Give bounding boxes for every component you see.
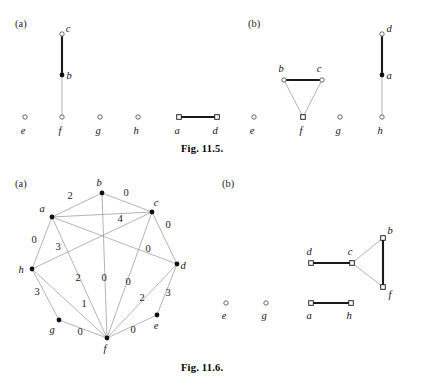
edge-weight-b-c: 0 (123, 187, 128, 198)
node-d-dot-marker (175, 262, 180, 267)
node-label-h: h (18, 264, 23, 275)
node-h-circle-marker (136, 115, 140, 119)
node-label-h: h (346, 310, 351, 321)
node-label-h: h (377, 125, 382, 136)
edge-a-b (52, 193, 102, 217)
edge-weight-h-f: 1 (81, 298, 86, 309)
edge-weight-a-c: 4 (117, 213, 123, 224)
node-a-dot-marker (50, 215, 55, 220)
edge-weight-f-d: 2 (139, 292, 144, 303)
edge-weight-e-d: 3 (165, 287, 170, 298)
node-group-fig115a: cbfeghad (21, 23, 220, 136)
panel-label-fig115-b: (b) (248, 18, 260, 29)
node-g-circle-marker (338, 115, 342, 119)
node-label-c: c (348, 246, 353, 257)
node-h-dot-marker (30, 267, 35, 272)
node-label-f: f (300, 125, 305, 136)
edge-b-f (284, 80, 303, 117)
edge-h-c (32, 212, 152, 269)
node-a-dot-marker (380, 73, 385, 78)
node-label-g: g (335, 125, 340, 136)
panel-label-fig115-a: (a) (15, 18, 27, 29)
node-b-circle-marker (282, 78, 286, 82)
node-b-dot-marker (100, 191, 105, 196)
node-f-circle-marker (60, 115, 64, 119)
edge-weight-c-d: 0 (165, 219, 170, 230)
node-group-fig115b: bcfegdah (250, 23, 393, 136)
node-label-d: d (212, 125, 218, 136)
edge-weight-a-h: 0 (31, 234, 36, 245)
node-label-e: e (21, 125, 26, 136)
node-e-circle-marker (23, 115, 27, 119)
node-group-fig116b: bdcfegah (222, 225, 394, 321)
node-label-d: d (386, 23, 392, 34)
node-b-dot-marker (60, 73, 65, 78)
node-c-square-marker (350, 261, 355, 266)
node-f-square-marker (381, 285, 386, 290)
edge-c-f (107, 212, 152, 338)
edge-weight-g-f: 0 (77, 326, 82, 337)
node-a-square-marker (309, 301, 314, 306)
node-f-dot-marker (105, 336, 110, 341)
node-g-dot-marker (57, 318, 62, 323)
node-label-h: h (133, 125, 138, 136)
node-label-a: a (174, 125, 179, 136)
edge-weight-b-f: 0 (101, 272, 106, 283)
node-label-b: b (66, 70, 71, 81)
edge-weight-a-b: 2 (67, 190, 72, 201)
edge-c-f (303, 80, 322, 117)
node-label-f: f (104, 343, 109, 354)
node-g-circle-marker (264, 301, 268, 305)
node-e-dot-marker (155, 313, 160, 318)
edge-weight-a-f: 3 (55, 241, 60, 252)
node-label-c: c (154, 197, 159, 208)
node-label-a: a (386, 70, 391, 81)
node-label-e: e (250, 125, 255, 136)
panel-label-fig116-a: (a) (15, 178, 27, 189)
figure-page: cbfeghadbcfegdah2040300200233100bcadhgef… (0, 0, 421, 379)
node-h-square-marker (349, 301, 354, 306)
edge-weight-c-f: 0 (125, 276, 130, 287)
node-label-f: f (389, 289, 394, 300)
edge-weight-h-c: 2 (75, 272, 80, 283)
node-b-square-marker (381, 236, 386, 241)
edge-b-f (102, 193, 107, 338)
node-c-dot-marker (150, 210, 155, 215)
node-label-g: g (261, 310, 266, 321)
node-d-square-marker (309, 261, 314, 266)
edge-a-d (52, 217, 177, 264)
edge-weight-a-d: 0 (145, 243, 150, 254)
node-e-circle-marker (224, 301, 228, 305)
node-label-a: a (39, 203, 44, 214)
node-d-circle-marker (380, 32, 384, 36)
edge-group-fig115b (284, 34, 382, 117)
edge-weight-group-fig116a: 2040300200233100 (31, 187, 170, 337)
node-label-b: b (278, 63, 283, 74)
node-label-b: b (387, 225, 392, 236)
edge-weight-h-g: 3 (34, 286, 39, 297)
node-c-circle-marker (60, 32, 64, 36)
panel-label-fig116-b: (b) (222, 178, 234, 189)
node-label-e: e (222, 310, 227, 321)
figure-caption-11-6: Fig. 11.6. (181, 362, 223, 373)
node-label-d: d (180, 260, 186, 271)
edge-group-fig115a (62, 34, 217, 117)
node-label-a: a (306, 310, 311, 321)
node-g-circle-marker (98, 115, 102, 119)
edge-a-c (52, 212, 152, 217)
node-c-circle-marker (320, 78, 324, 82)
edge-h-f (32, 269, 107, 338)
node-label-c: c (66, 23, 71, 34)
node-label-c: c (317, 63, 322, 74)
graph-canvas: cbfeghadbcfegdah2040300200233100bcadhgef… (0, 0, 421, 379)
node-e-circle-marker (252, 115, 256, 119)
node-label-b: b (96, 177, 101, 188)
node-label-g: g (95, 125, 100, 136)
node-label-f: f (59, 125, 64, 136)
edge-c-f (352, 263, 383, 287)
node-label-e: e (154, 320, 159, 331)
node-d-square-marker (215, 115, 220, 120)
node-f-square-marker (301, 115, 306, 120)
figure-caption-11-5: Fig. 11.5. (181, 143, 223, 154)
node-label-d: d (306, 246, 312, 257)
